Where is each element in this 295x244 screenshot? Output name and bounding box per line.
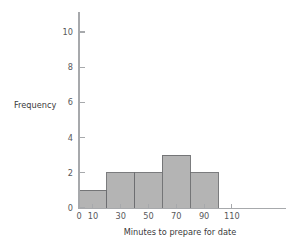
chart-canvas: 0 2 4 6 8 10 0 10 30 50 70 90 110 <box>0 0 295 244</box>
x-tick-label-30: 30 <box>115 211 125 221</box>
x-tick-labels: 0 10 30 50 70 90 110 <box>76 211 239 221</box>
y-tick-labels: 0 2 4 6 8 10 <box>63 27 73 213</box>
bar-bin-20-40 <box>107 173 135 208</box>
y-axis-title: Frequency <box>14 100 56 110</box>
bar-bin-80-100 <box>190 173 218 208</box>
y-tick-label-8: 8 <box>68 62 73 72</box>
x-tick-label-10: 10 <box>88 211 98 221</box>
bar-bin-60-80 <box>162 155 190 208</box>
x-tick-label-70: 70 <box>171 211 181 221</box>
y-tick-marks <box>79 32 85 208</box>
y-tick-label-10: 10 <box>63 27 73 37</box>
x-tick-label-110: 110 <box>224 211 240 221</box>
bar-bin-40-60 <box>135 173 163 208</box>
y-tick-label-2: 2 <box>68 168 73 178</box>
x-axis-title: Minutes to prepare for date <box>124 227 236 237</box>
y-tick-label-4: 4 <box>68 133 73 143</box>
x-tick-label-90: 90 <box>199 211 209 221</box>
y-tick-label-0: 0 <box>68 203 73 213</box>
histogram-chart: 0 2 4 6 8 10 0 10 30 50 70 90 110 <box>0 0 295 244</box>
x-tick-label-0: 0 <box>76 211 81 221</box>
y-tick-label-6: 6 <box>68 97 73 107</box>
x-tick-label-50: 50 <box>143 211 153 221</box>
bars-group <box>79 155 218 208</box>
